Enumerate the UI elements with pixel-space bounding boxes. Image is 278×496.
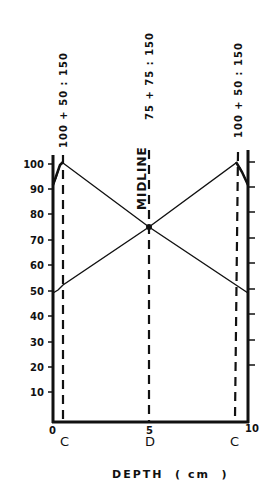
right-annotation: 100 + 50 : 150 [233,42,244,138]
midline-label: MIDLINE [135,146,149,210]
y-label-20: 20 [30,362,44,373]
y-tick-labels: 100 90 80 70 60 50 40 30 20 10 [23,159,44,398]
left-annotation: 100 + 50 : 150 [58,52,69,148]
cat-label-c-right: C [230,434,239,449]
marker-lines [63,150,238,421]
y-label-30: 30 [30,337,44,348]
dose-depth-chart: 100 90 80 70 60 50 40 30 20 10 100 + 50 … [0,0,278,496]
y-label-60: 60 [30,260,44,271]
y-label-100: 100 [23,159,44,170]
intersection-point [146,224,152,230]
y-label-40: 40 [30,311,44,322]
cat-label-d: D [145,434,155,449]
y-label-90: 90 [30,184,44,195]
y-label-70: 70 [30,235,44,246]
y-label-10: 10 [30,387,44,398]
y-label-50: 50 [30,286,44,297]
x-tick-0: 0 [49,425,56,436]
y-label-80: 80 [30,209,44,220]
x-tick-10: 10 [245,423,259,434]
x-axis-title: DEPTH ( cm ) [112,468,229,481]
mid-annotation: 75 + 75 : 150 [144,32,155,120]
chart-frame [52,150,249,423]
cat-label-c-left: C [60,434,69,449]
